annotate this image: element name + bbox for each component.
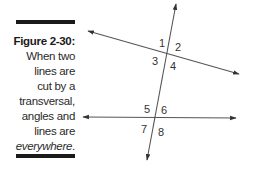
- angle-label-5: 5: [144, 103, 150, 115]
- angle-label-3: 3: [152, 55, 158, 67]
- angle-label-4: 4: [170, 60, 176, 72]
- angle-label-7: 7: [141, 123, 147, 135]
- transversal-diagram: 1 2 3 4 5 6 7 8: [0, 0, 259, 169]
- line-bottom: [83, 117, 236, 118]
- angle-label-2: 2: [175, 41, 181, 53]
- angle-label-6: 6: [161, 104, 167, 116]
- angle-label-8: 8: [158, 126, 164, 138]
- angle-label-1: 1: [159, 37, 165, 49]
